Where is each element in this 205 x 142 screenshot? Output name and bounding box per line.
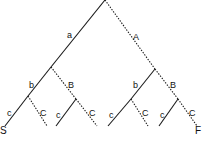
label-ll-right: C bbox=[40, 108, 47, 118]
leaf-start: S bbox=[0, 125, 7, 136]
label-l-right: B bbox=[68, 80, 74, 90]
label-lr-left: c bbox=[56, 110, 61, 120]
label-lr-right: C bbox=[89, 108, 96, 118]
label-r-left: b bbox=[133, 80, 138, 90]
label-root-left: a bbox=[67, 30, 72, 40]
label-rr-right: C bbox=[189, 108, 196, 118]
label-ll-left: c bbox=[7, 108, 12, 118]
leaf-finish: F bbox=[195, 125, 201, 136]
label-rl-right: C bbox=[142, 108, 149, 118]
edge-root-left bbox=[51, 0, 105, 67]
label-rl-left: c bbox=[109, 110, 114, 120]
edge-root-right bbox=[105, 0, 155, 69]
tree-diagram: a A b B b B c C c C c C c C S F bbox=[0, 0, 205, 142]
label-rr-left: c bbox=[160, 110, 165, 120]
label-r-right: B bbox=[170, 80, 176, 90]
label-l-left: b bbox=[29, 80, 34, 90]
label-root-right: A bbox=[133, 32, 139, 42]
